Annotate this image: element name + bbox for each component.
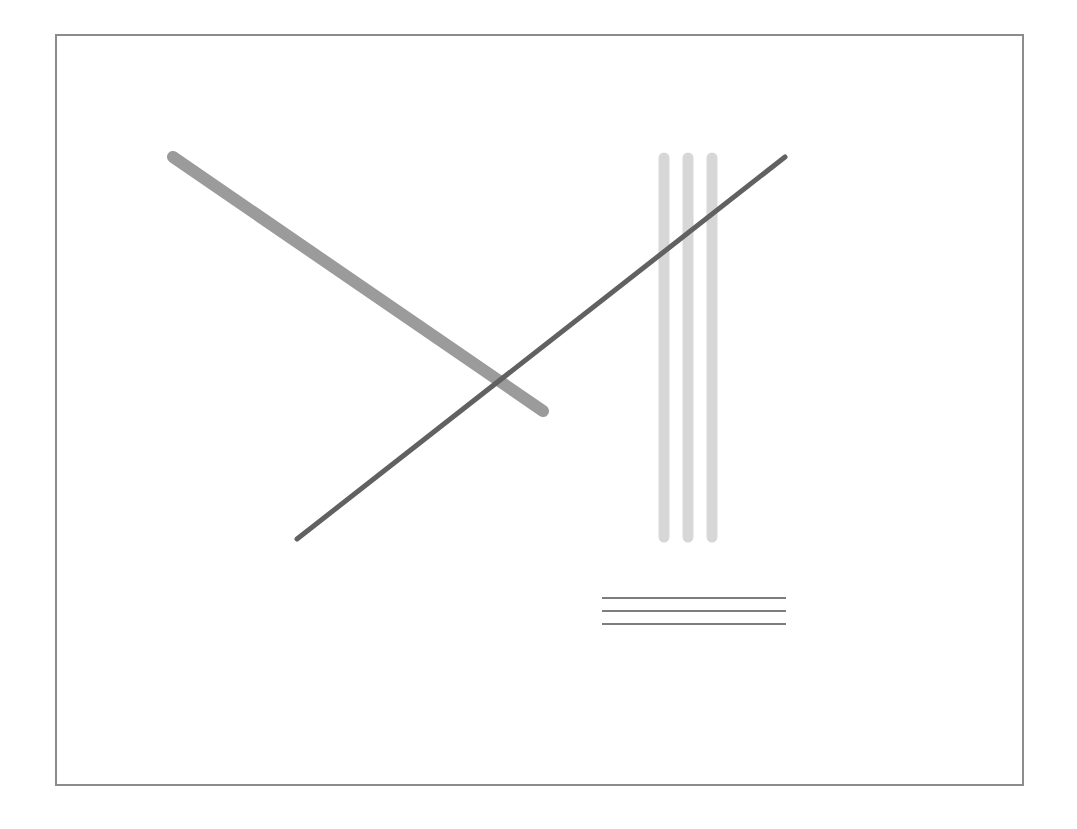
thick-diagonal-line	[173, 157, 543, 411]
vertical-bars-group	[664, 158, 712, 537]
horizontal-lines-group	[602, 598, 786, 624]
diagram-canvas	[0, 0, 1077, 829]
